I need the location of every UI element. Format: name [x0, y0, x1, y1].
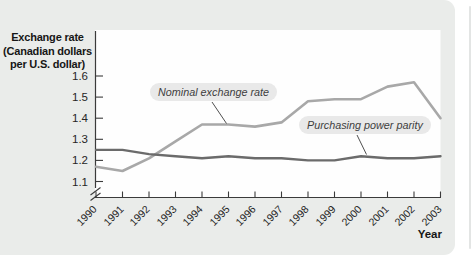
x-axis-title: Year	[398, 228, 442, 240]
plot-area	[95, 30, 441, 198]
y-axis-title: Exchange rate (Canadian dollars per U.S.…	[1, 31, 94, 72]
y-axis-title-line2: (Canadian dollars	[1, 45, 94, 59]
purchasing-power-parity-label: Purchasing power parity	[299, 116, 431, 134]
textbook-figure: Exchange rate (Canadian dollars per U.S.…	[0, 0, 473, 255]
y-tick-label: 1.2	[42, 153, 88, 167]
y-tick-label: 1.3	[42, 132, 88, 146]
y-tick-label: 1.6	[42, 69, 88, 83]
nominal-exchange-rate-label: Nominal exchange rate	[150, 83, 277, 101]
y-tick-label: 1.5	[42, 90, 88, 104]
y-tick-label: 1.4	[42, 111, 88, 125]
y-axis-title-line1: Exchange rate	[1, 31, 94, 45]
y-tick-label: 1.1	[42, 175, 88, 189]
